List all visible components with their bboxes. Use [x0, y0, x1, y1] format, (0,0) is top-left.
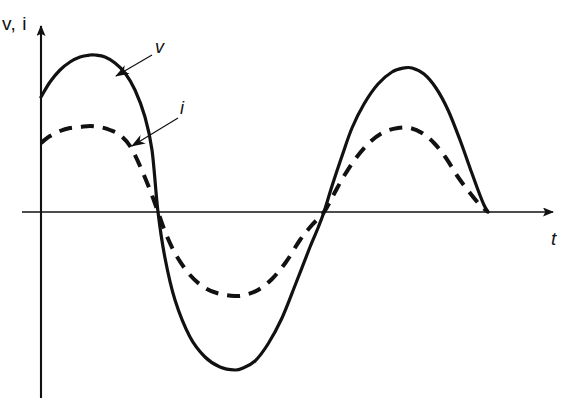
current-leader-line	[132, 118, 178, 146]
vertical-axis-label: v, i	[2, 13, 27, 35]
plot-canvas	[0, 0, 565, 398]
series-path-i	[41, 126, 488, 296]
waveform-figure: v, i t v i	[0, 0, 565, 398]
voltage-leader-line	[116, 55, 152, 76]
horizontal-axis-label: t	[551, 228, 557, 250]
voltage-curve-label: v	[155, 37, 164, 58]
current-curve-label: i	[180, 98, 184, 119]
callout-leaders	[116, 55, 178, 146]
